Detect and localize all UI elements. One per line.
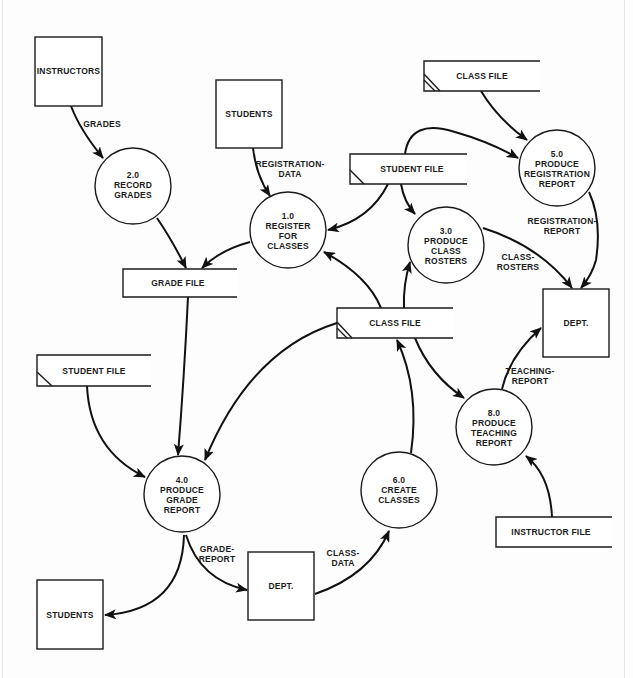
data-flow-diagram: INSTRUCTORS STUDENTS DEPT. DEPT. STUDENT… — [0, 0, 633, 678]
entity-dept-bottom[interactable]: DEPT. — [248, 552, 314, 620]
flow-student-file-to-p4 — [87, 386, 145, 477]
store-instructor-file[interactable]: INSTRUCTOR FILE — [496, 517, 612, 547]
flow-label-teaching-report: TEACHING- — [505, 366, 554, 376]
flow-label-grades: GRADES — [83, 119, 121, 129]
process-5-produce-registration-report[interactable]: 5.0 PRODUCE REGISTRATION REPORT — [519, 130, 595, 206]
entity-label: STUDENTS — [225, 109, 273, 119]
flow-grade-file-to-p4 — [178, 297, 188, 455]
entity-label: STUDENTS — [46, 610, 94, 620]
flow-label-class-data: DATA — [331, 558, 354, 568]
store-class-file-mid[interactable]: CLASS FILE — [337, 308, 453, 338]
process-2-record-grades[interactable]: 2.0 RECORD GRADES — [95, 148, 171, 224]
process-6-create-classes[interactable]: 6.0 CREATE CLASSES — [361, 452, 437, 528]
flow-class-file-to-p5 — [481, 91, 527, 140]
flow-registration-data — [253, 148, 270, 196]
process-4-produce-grade-report[interactable]: 4.0 PRODUCE GRADE REPORT — [144, 456, 220, 532]
process-number: 4.0 — [176, 475, 188, 485]
process-label-line: PRODUCE — [535, 159, 579, 169]
flow-class-file-to-p4 — [205, 323, 337, 460]
store-label: CLASS FILE — [369, 318, 421, 328]
flow-p2-to-grade-file — [157, 218, 186, 268]
entity-label: INSTRUCTORS — [37, 66, 101, 76]
process-label-line: CLASSES — [267, 241, 309, 251]
process-label-line: RECORD — [114, 180, 152, 190]
flow-grades — [71, 106, 103, 158]
flow-p6-to-class-file — [397, 340, 414, 453]
process-number: 5.0 — [551, 149, 563, 159]
process-label-line: GRADE — [166, 495, 198, 505]
flow-registration-report — [581, 192, 598, 288]
process-label-line: CLASS — [431, 246, 461, 256]
process-label-line: REGISTRATION — [524, 169, 590, 179]
process-label-line: GRADES — [114, 190, 152, 200]
store-label: GRADE FILE — [151, 278, 205, 288]
process-label-line: PRODUCE — [472, 418, 516, 428]
flow-label-registration-data: REGISTRATION- — [255, 159, 324, 169]
process-1-register-for-classes[interactable]: 1.0 REGISTER FOR CLASSES — [250, 192, 326, 268]
entity-instructors[interactable]: INSTRUCTORS — [35, 37, 102, 106]
flow-instructor-file-to-p8 — [526, 456, 552, 517]
flow-student-file-to-p3 — [401, 184, 415, 214]
flow-p4-to-students — [105, 535, 184, 615]
store-grade-file[interactable]: GRADE FILE — [123, 269, 237, 297]
store-label: CLASS FILE — [456, 71, 508, 81]
flow-class-file-to-p8 — [415, 338, 464, 398]
flow-label-class-rosters: CLASS- — [502, 252, 535, 262]
flow-label-teaching-report: REPORT — [512, 376, 549, 386]
flow-label-class-rosters: ROSTERS — [497, 262, 540, 272]
process-3-produce-class-rosters[interactable]: 3.0 PRODUCE CLASS ROSTERS — [408, 207, 484, 283]
flow-student-file-to-p1 — [328, 184, 388, 230]
process-number: 2.0 — [127, 170, 139, 180]
process-number: 1.0 — [282, 211, 294, 221]
flow-label-registration-report: REPORT — [544, 226, 581, 236]
process-label-line: PRODUCE — [160, 485, 204, 495]
process-number: 8.0 — [488, 408, 500, 418]
flow-label-registration-report: REGISTRATION- — [527, 216, 596, 226]
process-label-line: REPORT — [476, 438, 513, 448]
process-label-line: PRODUCE — [424, 236, 468, 246]
process-label-line: FOR — [279, 231, 298, 241]
flow-class-file-to-p3 — [404, 262, 410, 308]
store-class-file-top[interactable]: CLASS FILE — [424, 61, 540, 91]
flow-class-file-to-p1 — [324, 252, 381, 308]
process-label-line: TEACHING — [471, 428, 517, 438]
flow-label-class-data: CLASS- — [327, 548, 360, 558]
store-label: STUDENT FILE — [62, 366, 125, 376]
process-number: 6.0 — [393, 475, 405, 485]
store-label: STUDENT FILE — [380, 164, 443, 174]
process-label-line: ROSTERS — [425, 256, 468, 266]
entity-label: DEPT. — [268, 581, 293, 591]
process-number: 3.0 — [440, 226, 452, 236]
process-label-line: REPORT — [539, 179, 576, 189]
process-label-line: CLASSES — [378, 495, 420, 505]
process-8-produce-teaching-report[interactable]: 8.0 PRODUCE TEACHING REPORT — [456, 389, 532, 465]
entity-dept-right[interactable]: DEPT. — [543, 289, 609, 357]
store-student-file-mid[interactable]: STUDENT FILE — [350, 154, 467, 184]
process-label-line: REGISTER — [265, 221, 310, 231]
entity-students-top[interactable]: STUDENTS — [216, 80, 282, 148]
flow-label-registration-data: DATA — [278, 169, 301, 179]
store-student-file-left[interactable]: STUDENT FILE — [37, 355, 151, 386]
entity-label: DEPT. — [563, 318, 588, 328]
process-label-line: CREATE — [381, 485, 417, 495]
store-label: INSTRUCTOR FILE — [511, 527, 590, 537]
entity-students-bottom[interactable]: STUDENTS — [37, 580, 103, 649]
flow-p1-to-grade-file — [202, 242, 250, 268]
flow-label-grade-report: REPORT — [199, 554, 236, 564]
flow-label-grade-report: GRADE- — [200, 544, 235, 554]
process-label-line: REPORT — [164, 505, 201, 515]
